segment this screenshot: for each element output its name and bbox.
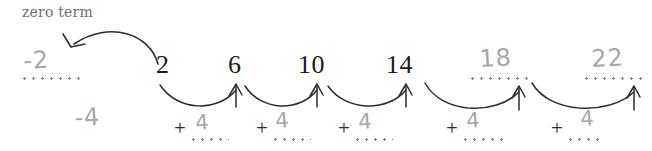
step-3-operator: +	[338, 116, 350, 141]
number-sequence-diagram: zero term -2 -4 2 6 10 14 18 22	[0, 0, 652, 151]
step-arrow-1	[160, 84, 242, 107]
step-5-dotted-line	[566, 138, 600, 141]
step-2-operator: +	[256, 116, 268, 141]
step-1-operator: +	[174, 116, 186, 141]
step-2-dotted-line	[271, 138, 311, 141]
step-3-dotted-line	[353, 138, 393, 141]
step-4-dotted-line	[461, 138, 503, 141]
step-5-operator: +	[551, 116, 563, 141]
step-arrow-2	[245, 84, 323, 107]
step-1-dotted-line	[189, 138, 229, 141]
step-5-value: 4	[579, 106, 595, 131]
step-arrow-3	[328, 84, 412, 107]
step-arrow-4	[425, 83, 525, 110]
step-2-value: 4	[274, 108, 290, 133]
step-1-value: 4	[194, 110, 210, 135]
step-3-value: 4	[357, 109, 373, 134]
step-4-value: 4	[465, 108, 481, 133]
step-4-operator: +	[446, 116, 458, 141]
